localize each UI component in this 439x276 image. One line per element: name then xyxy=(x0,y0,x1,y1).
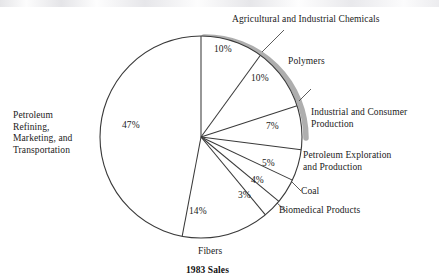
slice-label-agricultural-and-industrial-chemicals: Agricultural and Industrial Chemicals xyxy=(232,14,379,26)
chart-caption: 1983 Sales xyxy=(186,265,229,275)
slice-value-petroleum-refining-marketing-transportation: 47% xyxy=(122,120,140,130)
slice-value-industrial-and-consumer-production: 7% xyxy=(266,121,279,131)
slice-value-biomedical-products: 3% xyxy=(238,190,251,200)
slice-label-fibers: Fibers xyxy=(198,246,222,258)
slice-value-coal: 4% xyxy=(251,175,264,185)
slice-label-biomedical-products: Biomedical Products xyxy=(279,205,360,217)
leader-line-agricultural xyxy=(262,30,284,52)
slice-value-polymers: 10% xyxy=(251,73,269,83)
slice-value-fibers: 14% xyxy=(189,206,207,216)
leader-line-coal xyxy=(292,182,301,191)
pie-chart-figure: Agricultural and Industrial Chemicals Po… xyxy=(0,0,439,276)
slice-label-industrial-and-consumer-production: Industrial and Consumer Production xyxy=(311,107,407,130)
leader-line-polymers xyxy=(299,89,311,101)
slice-label-polymers: Polymers xyxy=(288,56,325,68)
slice-label-petroleum-refining-marketing-transportation: Petroleum Refining, Marketing, and Trans… xyxy=(13,110,72,156)
slice-label-coal: Coal xyxy=(301,186,319,198)
slice-label-petroleum-exploration-and-production: Petroleum Exploration and Production xyxy=(303,150,391,173)
slice-value-agricultural-and-industrial-chemicals: 10% xyxy=(214,44,232,54)
slice-value-petroleum-exploration-and-production: 5% xyxy=(262,158,275,168)
